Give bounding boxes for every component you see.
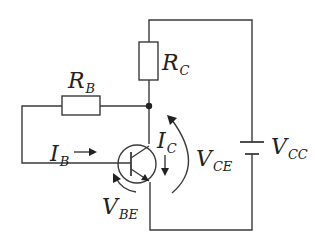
ib-arrow-icon bbox=[74, 148, 97, 156]
ic-symbol: I bbox=[157, 128, 166, 153]
npn-transistor-symbol bbox=[118, 145, 156, 183]
ic-subscript: C bbox=[167, 141, 177, 156]
rb-subscript: B bbox=[86, 81, 96, 96]
circuit-diagram bbox=[0, 0, 315, 247]
ib-subscript: B bbox=[60, 154, 70, 169]
rc-symbol: R bbox=[162, 50, 179, 75]
vbe-symbol: V bbox=[102, 194, 118, 219]
vce-subscript: CE bbox=[213, 159, 232, 174]
rb-symbol: R bbox=[68, 68, 85, 93]
junction-node bbox=[146, 103, 152, 109]
rc-resistor bbox=[139, 42, 158, 80]
ib-symbol: I bbox=[50, 141, 59, 166]
rb-resistor bbox=[62, 96, 100, 115]
rb-label: RB bbox=[68, 70, 95, 92]
battery-vcc-symbol bbox=[240, 142, 264, 154]
vcc-label: VCC bbox=[271, 136, 308, 158]
vbe-subscript: BE bbox=[119, 207, 138, 222]
vcc-symbol: V bbox=[271, 134, 287, 159]
ic-arrow-icon bbox=[161, 155, 169, 176]
ib-label: IB bbox=[50, 143, 69, 165]
rc-label: RC bbox=[162, 52, 190, 74]
rc-subscript: C bbox=[180, 63, 190, 78]
ic-label: IC bbox=[157, 130, 177, 152]
vce-symbol: V bbox=[196, 146, 212, 171]
vbe-label: VBE bbox=[102, 196, 138, 218]
vce-label: VCE bbox=[196, 148, 232, 170]
vcc-subscript: CC bbox=[288, 147, 308, 162]
